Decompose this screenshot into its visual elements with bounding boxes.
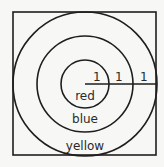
region-label-yellow: yellow <box>66 139 104 153</box>
radius-label-2: 1 <box>115 70 123 84</box>
radius-label-1: 1 <box>93 70 101 84</box>
target-diagram: 1 1 1 red blue yellow <box>0 0 164 167</box>
region-label-blue: blue <box>72 112 98 126</box>
region-label-red: red <box>75 89 95 103</box>
radius-label-3: 1 <box>140 70 148 84</box>
